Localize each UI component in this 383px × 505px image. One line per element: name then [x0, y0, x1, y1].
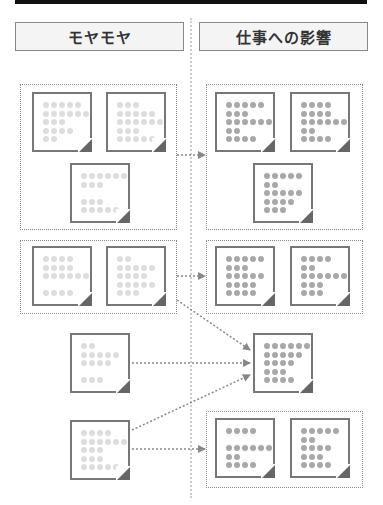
arrow-group2-to-r3 [177, 300, 250, 350]
arrow-r4-to-r3 [132, 375, 250, 430]
arrows-layer [0, 0, 383, 505]
